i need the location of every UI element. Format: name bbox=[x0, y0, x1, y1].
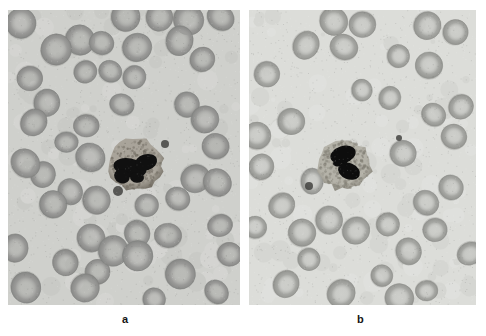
micrograph-panel-b bbox=[249, 10, 476, 305]
panel-label-a: a bbox=[122, 314, 128, 325]
blood-smear-figure: a b bbox=[0, 0, 486, 336]
micrograph-image-b bbox=[249, 10, 476, 305]
micrograph-panel-a bbox=[8, 10, 240, 305]
micrograph-image-a bbox=[8, 10, 240, 305]
panel-label-b: b bbox=[357, 314, 364, 325]
